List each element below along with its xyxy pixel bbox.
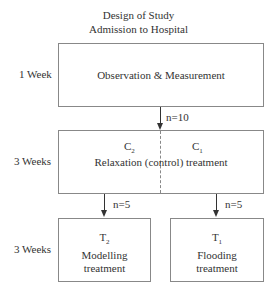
modelling-box: T2 Modelling treatment	[58, 218, 151, 282]
n-label-5-left: n=5	[113, 198, 130, 210]
duration-label-2: 3 Weeks	[14, 155, 51, 167]
n-label-10: n=10	[166, 111, 189, 123]
arrow-line	[160, 107, 161, 124]
arrow-down-icon	[101, 210, 107, 217]
duration-label-1: 1 Week	[19, 68, 52, 80]
group-c1: C1	[192, 140, 203, 155]
arrow-line-left	[104, 194, 105, 211]
flooding-label: Flooding	[171, 249, 263, 262]
arrow-down-icon	[213, 210, 219, 217]
observation-label: Observation & Measurement	[59, 69, 263, 82]
diagram-subtitle: Admission to Hospital	[0, 23, 277, 35]
modelling-label-2: treatment	[59, 262, 150, 275]
relaxation-label: Relaxation (control) treatment	[59, 156, 263, 169]
flooding-label-2: treatment	[171, 262, 263, 275]
duration-label-3: 3 Weeks	[14, 243, 51, 255]
arrow-line-right	[216, 194, 217, 211]
modelling-label: Modelling	[59, 249, 150, 262]
n-label-5-right: n=5	[225, 198, 242, 210]
t1-label: T1	[171, 231, 263, 249]
observation-box: Observation & Measurement	[58, 43, 264, 107]
t2-label: T2	[59, 231, 150, 249]
flooding-box: T1 Flooding treatment	[170, 218, 264, 282]
group-c2: C2	[124, 140, 135, 155]
relaxation-box: C2 C1 Relaxation (control) treatment	[58, 130, 264, 194]
diagram-title: Design of Study	[0, 9, 277, 21]
arrow-down-icon	[157, 123, 163, 130]
